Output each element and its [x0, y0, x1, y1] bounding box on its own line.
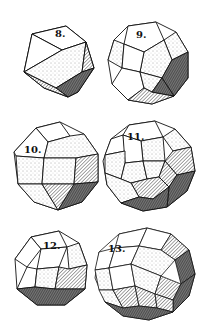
- snub-dodecahedron-icon: [95, 228, 195, 320]
- polyhedra-plate: 8. 9.: [0, 0, 208, 325]
- solid-9-icosidodecahedron: 9.: [108, 22, 190, 104]
- solid-number-label: 11.: [127, 132, 144, 142]
- solid-8-cuboctahedron: 8.: [22, 22, 98, 98]
- rhombicosidodecahedron-icon: [103, 121, 195, 211]
- icosidodecahedron-icon: [108, 22, 190, 104]
- solid-10-truncated-octahedron: 10.: [14, 122, 100, 210]
- solid-number-label: 12.: [43, 241, 60, 251]
- solid-number-label: 9.: [136, 30, 146, 40]
- solid-13-snub-dodecahedron: 13.: [95, 228, 195, 320]
- truncated-polyhedron-icon: [14, 122, 100, 210]
- solid-number-label: 13.: [108, 244, 125, 254]
- solid-12-snub-cube: 12.: [15, 229, 87, 307]
- solid-number-label: 10.: [24, 145, 41, 155]
- solid-11-rhombicosidodecahedron: 11.: [103, 121, 195, 211]
- solid-number-label: 8.: [55, 29, 65, 39]
